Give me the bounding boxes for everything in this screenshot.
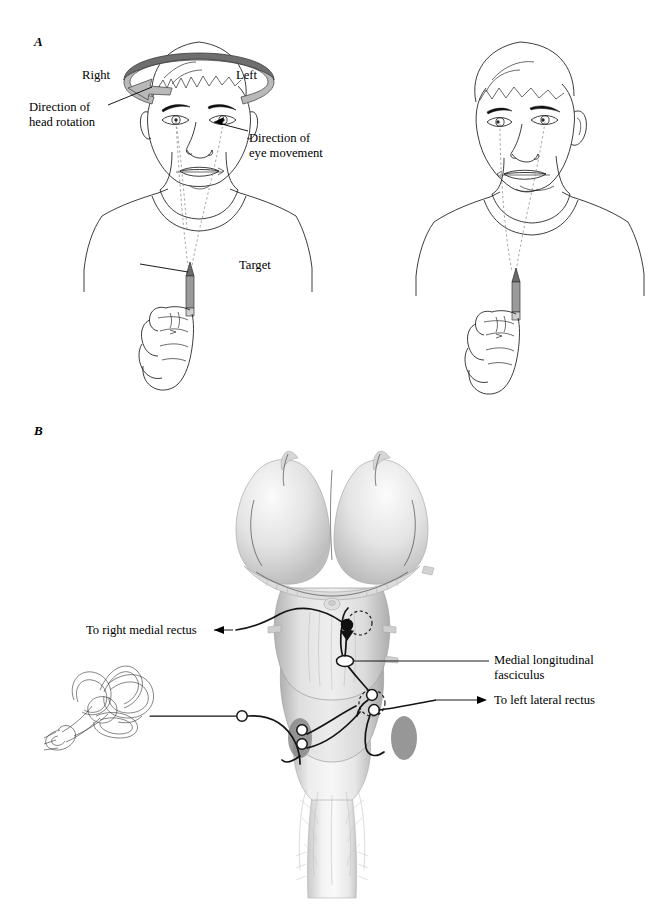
label-medial-longitudinal-fasciculus: Medial longitudinal fasciculus	[494, 653, 594, 682]
oculomotor-nucleus-outline	[348, 611, 372, 635]
abducens-internuclear-neuron	[369, 705, 380, 716]
vestibular-labyrinth	[44, 666, 154, 750]
abducens-motor-neuron	[367, 690, 378, 701]
right-subject-figure	[416, 42, 644, 394]
label-left-lateral-rectus: To left lateral rectus	[494, 693, 595, 708]
figure-root: A B	[0, 0, 669, 917]
vestibular-nucleus-neuron-2	[297, 739, 307, 749]
target-pencil-right	[512, 268, 520, 320]
abducens-nucleus-outline	[359, 690, 385, 716]
panel-a-leader-lines	[108, 87, 248, 272]
label-right-medial-rectus: To right medial rectus	[86, 623, 197, 638]
label-left: Left	[236, 68, 257, 83]
left-subject-figure	[84, 42, 312, 390]
oculomotor-motor-neuron	[341, 619, 352, 630]
label-right: Right	[82, 68, 110, 83]
vestibular-nucleus-neuron-1	[297, 725, 307, 735]
brainstem-model	[236, 451, 434, 898]
panel-b-artwork	[0, 0, 669, 917]
label-target: Target	[239, 258, 271, 273]
vestibular-ganglion	[237, 711, 247, 721]
panel-a-letter: A	[34, 34, 43, 50]
panel-b-letter: B	[34, 423, 43, 439]
target-pencil	[186, 262, 194, 316]
panel-b-leader-lines	[214, 626, 489, 704]
label-eye-movement: Direction of eye movement	[249, 131, 323, 160]
mlf-marker	[337, 655, 354, 666]
panel-a-artwork	[0, 0, 669, 917]
left-subject-hand	[139, 307, 194, 390]
right-subject-hand	[465, 311, 520, 394]
label-head-rotation: Direction of head rotation	[29, 100, 95, 129]
